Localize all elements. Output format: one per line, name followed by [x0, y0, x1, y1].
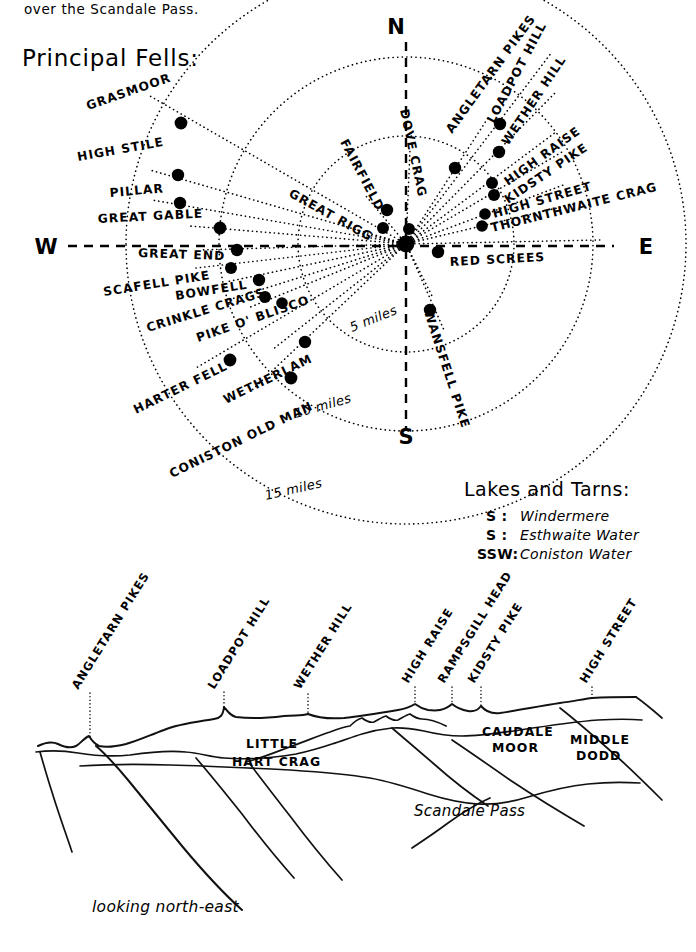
- pano-label-angletarn-pikes: ANGLETARN PIKES: [69, 569, 153, 691]
- dot-dove-crag: [403, 223, 415, 235]
- ring-label-10-miles: 10 miles: [293, 390, 353, 421]
- pano-inline-caudale-moor-line2: MOOR: [492, 740, 539, 755]
- lakes-bearing-1: S :: [486, 527, 507, 543]
- dot-wetherlam: [299, 336, 311, 348]
- ridge-left-c: [196, 758, 294, 878]
- dot-angletarn-pikes: [449, 162, 461, 174]
- ring-label-5-miles: 5 miles: [348, 302, 400, 335]
- dot-wether-hill: [493, 146, 505, 158]
- pano-inline-little-hart-crag-line1: LITTLE: [246, 736, 298, 751]
- pano-inline-middle-dodd-line1: MIDDLE: [570, 732, 630, 747]
- fell-label-harter-fell: HARTER FELL: [131, 359, 230, 417]
- panorama-sketch: ANGLETARN PIKES LOADPOT HILL WETHER HILL…: [36, 569, 662, 916]
- skyline-caudale-moor: [80, 764, 640, 804]
- fell-panorama-figure: over the Scandale Pass. Principal Fells:: [0, 0, 696, 952]
- dot-high-street: [479, 208, 491, 220]
- ridge-left-d: [250, 764, 342, 880]
- fell-label-coniston-old-man: CONISTON OLD MAN: [167, 399, 315, 481]
- dot-high-raise: [486, 177, 498, 189]
- lakes-bearing-0: S :: [486, 508, 507, 524]
- compass-east-label: E: [639, 235, 653, 259]
- fell-label-dove-crag: DOVE CRAG: [397, 108, 429, 199]
- fell-label-wansfell-pike: WANSFELL PIKE: [421, 309, 472, 431]
- fell-label-fairfield: FAIRFIELD: [337, 137, 387, 214]
- pano-inline-little-hart-crag-line2: HART CRAG: [232, 754, 321, 769]
- pano-label-wether-hill: WETHER HILL: [291, 600, 355, 691]
- page-root: over the Scandale Pass. Principal Fells:: [0, 0, 696, 952]
- dot-great-gable: [214, 222, 227, 235]
- lakes-name-2: Coniston Water: [520, 546, 632, 562]
- lakes-name-0: Windermere: [520, 508, 609, 524]
- dot-scafell-pike: [225, 262, 237, 274]
- page-title: Principal Fells:: [22, 45, 199, 71]
- compass-south-label: S: [398, 425, 413, 449]
- compass-north-label: N: [387, 15, 405, 39]
- ridge-right-a: [392, 728, 488, 806]
- pano-inline-middle-dodd-line2: DODD: [576, 748, 621, 763]
- intro-text: over the Scandale Pass.: [24, 1, 199, 17]
- dot-high-stile: [172, 169, 184, 181]
- dot-grasmoor: [175, 117, 188, 130]
- fell-label-great-end: GREAT END: [138, 246, 226, 263]
- dot-bowfell: [253, 274, 265, 286]
- lakes-bearing-2: SSW:: [477, 546, 518, 562]
- looking-caption: looking north-east: [92, 898, 240, 916]
- dot-thornthwaite-crag: [476, 220, 488, 232]
- pano-label-high-street: HIGH STREET: [577, 596, 640, 686]
- ridge-left-a: [96, 746, 242, 910]
- fell-label-pillar: PILLAR: [109, 181, 164, 200]
- distance-ring-labels: 5 miles 10 miles 15 miles: [263, 302, 399, 503]
- scandale-pass-label: Scandale Pass: [414, 802, 525, 820]
- dot-red-screes: [432, 246, 444, 258]
- pano-label-loadpot-hill: LOADPOT HILL: [205, 594, 273, 691]
- lakes-key-heading: Lakes and Tarns:: [464, 478, 630, 500]
- dot-great-rigg: [377, 222, 389, 234]
- fell-label-grasmoor: GRASMOOR: [84, 71, 172, 113]
- ridge-left-b: [40, 752, 72, 852]
- fell-label-great-gable: GREAT GABLE: [97, 206, 203, 226]
- skyline-main: [38, 697, 636, 747]
- fell-label-high-stile: HIGH STILE: [76, 135, 165, 164]
- ring-label-15-miles: 15 miles: [263, 475, 323, 503]
- pano-label-kidsty-pike: KIDSTY PIKE: [465, 600, 526, 686]
- dot-kidsty-pike: [488, 189, 500, 201]
- fell-label-red-screes: RED SCREES: [449, 250, 545, 269]
- ridge-right-d: [636, 697, 662, 718]
- dot-great-end: [231, 244, 243, 256]
- lakes-and-tarns-key: Lakes and Tarns: S : Windermere S : Esth…: [464, 478, 640, 562]
- dot-viewpoint: [398, 236, 415, 253]
- lakes-name-1: Esthwaite Water: [520, 527, 640, 543]
- pano-inline-caudale-moor-line1: CAUDALE: [482, 724, 554, 739]
- compass-west-label: W: [34, 235, 57, 259]
